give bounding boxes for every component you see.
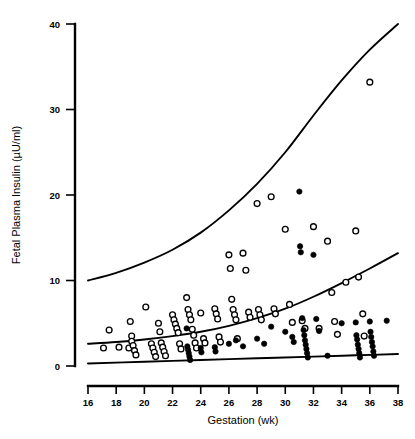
data-point-filled [297,189,302,194]
data-point-filled [199,350,204,355]
data-point-filled [339,321,344,326]
data-point-filled [316,328,321,333]
data-point-filled [240,344,245,349]
data-point-filled [254,336,259,341]
data-point-open [233,317,239,323]
x-tick-label: 26 [224,397,235,408]
data-point-open [240,250,246,256]
data-point-filled [297,244,302,249]
data-point-filled [302,333,307,338]
data-point-open [343,279,349,285]
data-point-open [163,353,169,359]
data-point-open [156,320,162,326]
data-point-open [153,354,159,360]
data-point-filled [226,341,231,346]
data-point-filled [291,339,296,344]
x-tick-label: 18 [111,397,122,408]
data-point-open [289,319,295,325]
upper-reference-curve [88,24,398,281]
data-point-open [243,267,249,273]
data-point-open [273,311,279,317]
data-point-open [325,238,331,244]
data-point-open [254,201,260,207]
data-point-open [282,226,288,232]
data-point-open [226,252,232,258]
data-point-filled [213,349,218,354]
data-point-filled [370,344,375,349]
data-point-filled [311,252,316,257]
y-tick-label: 0 [55,361,60,372]
data-point-open [361,333,367,339]
x-tick-label: 36 [365,397,376,408]
data-point-open [311,224,317,230]
data-point-open [258,317,264,323]
data-point-open [360,311,366,317]
data-point-filled [325,353,330,358]
data-point-filled [353,320,358,325]
data-point-filled [371,353,376,358]
data-point-open [353,228,359,234]
data-point-open [247,314,253,320]
x-tick-label: 24 [195,397,206,408]
y-axis-title: Fetal Plasma Insulin (µU/ml) [10,126,22,264]
data-point-open [116,344,122,350]
y-axis: 010203040 [49,19,75,372]
data-point-open [335,331,341,337]
data-point-filled [290,334,295,339]
data-point-open [178,346,184,352]
data-point-open [191,332,197,338]
data-point-filled [305,355,310,360]
data-point-open [143,304,149,310]
x-tick-label: 22 [167,397,178,408]
data-point-open [175,330,181,336]
data-point-filled [283,329,288,334]
data-point-filled [301,327,306,332]
data-point-filled [187,357,192,362]
y-tick-label: 20 [49,190,60,201]
data-point-filled [268,324,273,329]
y-tick-label: 40 [49,19,60,30]
y-axis-ticks [66,24,75,366]
scatter-plot: 010203040 161820222426283032343638 Gesta… [0,0,415,439]
y-tick-label: 10 [49,275,60,286]
data-point-open [215,316,221,322]
data-point-open [189,326,195,332]
chart-figure: 010203040 161820222426283032343638 Gesta… [0,0,415,439]
data-points [101,79,390,362]
data-point-filled [261,341,266,346]
data-point-filled [354,337,359,342]
data-point-open [106,327,112,333]
data-point-open [101,345,107,351]
data-point-filled [314,316,319,321]
y-axis-tick-labels: 010203040 [49,19,60,372]
x-tick-label: 38 [393,397,404,408]
open-circle-series [101,79,373,359]
x-axis-title: Gestation (wk) [208,414,279,426]
data-point-filled [369,334,374,339]
y-tick-label: 30 [49,104,60,115]
data-point-open [188,317,194,323]
data-point-open [287,302,293,308]
data-point-filled [368,329,373,334]
data-point-open [229,296,235,302]
x-tick-label: 34 [336,397,347,408]
data-point-filled [298,250,303,255]
data-point-open [227,266,233,272]
x-tick-label: 28 [252,397,263,408]
x-tick-label: 32 [308,397,319,408]
data-point-open [268,194,274,200]
data-point-open [356,274,362,280]
data-point-filled [367,319,372,324]
data-point-open [133,352,139,358]
data-point-open [218,339,224,345]
data-point-open [202,340,208,346]
data-point-open [332,319,338,325]
data-point-open [157,329,163,335]
x-axis: 161820222426283032343638 [83,386,404,408]
data-point-filled [184,326,189,331]
data-point-open [198,310,204,316]
x-axis-tick-labels: 161820222426283032343638 [83,397,404,408]
data-point-open [184,295,190,301]
x-tick-label: 16 [83,397,94,408]
data-point-open [127,319,133,325]
